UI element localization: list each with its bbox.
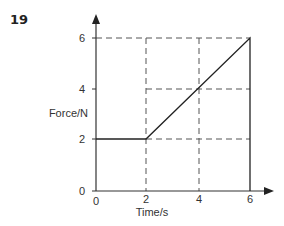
x-tick-0: 0 bbox=[93, 195, 99, 207]
y-tick-6: 6 bbox=[79, 32, 85, 44]
y-tick-2: 2 bbox=[79, 133, 85, 145]
force-time-chart: 6 4 2 0 0 2 4 6 Force/N Time/s bbox=[0, 0, 284, 226]
x-tick-4: 4 bbox=[196, 193, 202, 205]
y-axis-arrow-icon bbox=[92, 14, 100, 24]
x-axis-label: Time/s bbox=[136, 206, 169, 218]
y-tick-0: 0 bbox=[79, 185, 85, 197]
x-tick-6: 6 bbox=[247, 193, 253, 205]
x-axis-arrow-icon bbox=[264, 187, 274, 195]
y-axis-label: Force/N bbox=[49, 107, 88, 119]
force-series-line bbox=[96, 38, 250, 191]
y-tick-4: 4 bbox=[79, 83, 85, 95]
x-tick-2: 2 bbox=[143, 193, 149, 205]
